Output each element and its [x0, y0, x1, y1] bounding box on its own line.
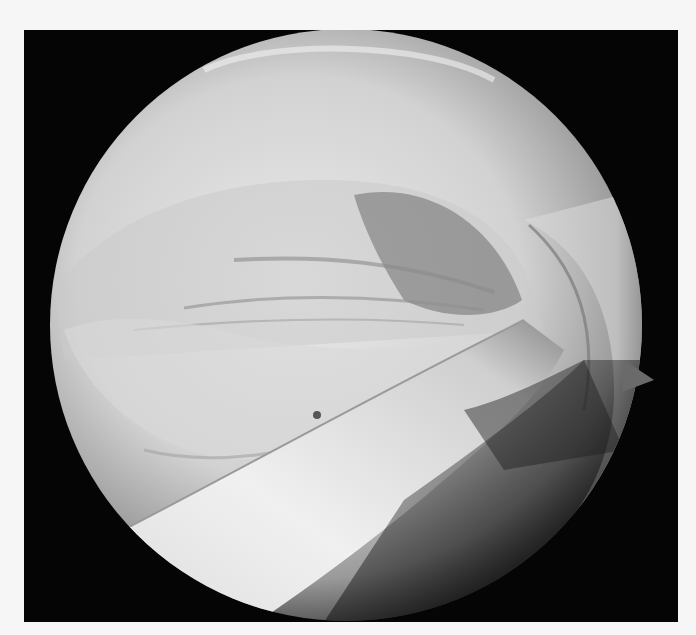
scope-field	[24, 30, 678, 622]
photo-frame	[24, 30, 678, 622]
lesion-spot	[313, 411, 321, 419]
arthroscopic-view	[24, 30, 678, 622]
